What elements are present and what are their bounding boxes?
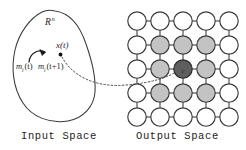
grid-node[interactable] [197, 108, 215, 126]
grid-node-neighbor[interactable] [151, 84, 169, 102]
grid-node[interactable] [220, 36, 238, 54]
grid-node-neighbor[interactable] [197, 60, 215, 78]
weight-before-time: (t) [25, 61, 33, 71]
region-label-R: R [44, 17, 51, 27]
weight-before-label: m i (t) [16, 61, 33, 73]
grid-node[interactable] [151, 12, 169, 30]
grid-node-neighbor[interactable] [151, 60, 169, 78]
grid-node-neighbor[interactable] [197, 84, 215, 102]
region-label-exponent: n [52, 15, 55, 22]
grid-node[interactable] [220, 60, 238, 78]
diagram-canvas: R n x(t) m i (t) m i (t+1) [0, 0, 246, 150]
grid-row [128, 108, 238, 126]
grid-node[interactable] [128, 36, 146, 54]
output-space-caption: Output Space [136, 131, 219, 142]
grid-node[interactable] [128, 108, 146, 126]
som-diagram-figure: R n x(t) m i (t) m i (t+1) [0, 0, 246, 150]
grid-node-neighbor[interactable] [174, 36, 192, 54]
output-space-grid: c [128, 12, 238, 126]
grid-node[interactable] [128, 84, 146, 102]
grid-row [128, 36, 238, 54]
grid-node[interactable] [197, 12, 215, 30]
grid-node-neighbor[interactable] [197, 36, 215, 54]
grid-row [128, 84, 238, 102]
grid-node[interactable] [151, 108, 169, 126]
weight-after-time: (t+1) [47, 61, 64, 71]
grid-node[interactable] [128, 12, 146, 30]
grid-node[interactable] [220, 84, 238, 102]
grid-node[interactable] [220, 12, 238, 30]
grid-node-neighbor[interactable] [174, 84, 192, 102]
grid-node-neighbor[interactable] [151, 36, 169, 54]
grid-node[interactable] [128, 60, 146, 78]
grid-row [128, 12, 238, 30]
weight-after-label: m i (t+1) [38, 61, 64, 73]
grid-node[interactable] [220, 108, 238, 126]
grid-node[interactable] [174, 12, 192, 30]
input-space-caption: Input Space [21, 131, 97, 142]
sample-point-dot [59, 53, 63, 57]
sample-label-x-of-t: x(t) [55, 40, 69, 50]
grid-node[interactable] [174, 108, 192, 126]
